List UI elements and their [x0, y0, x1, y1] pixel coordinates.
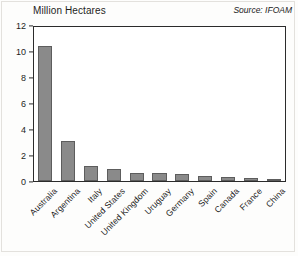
bar [221, 177, 235, 181]
bar [198, 176, 212, 181]
y-axis-tick-mark [29, 25, 33, 26]
y-axis-tick-label: 4 [21, 125, 26, 135]
x-axis-tick-label: France [238, 186, 264, 212]
bar-slot [175, 27, 189, 181]
bar-slot [107, 27, 121, 181]
y-axis-tick-mark [29, 51, 33, 52]
y-axis-tick-mark [29, 155, 33, 156]
y-axis-tick-label: 12 [16, 21, 26, 31]
bar-slot [38, 27, 52, 181]
chart-page: Million Hectares Source: IFOAM 024681012… [0, 0, 298, 256]
y-axis-tick-mark [29, 181, 33, 182]
bar-slot [267, 27, 281, 181]
y-axis-tick-label: 6 [21, 99, 26, 109]
x-axis-tick-label: Italy [86, 186, 105, 205]
y-axis-tick-label: 8 [21, 73, 26, 83]
y-axis-tick-label: 0 [21, 177, 26, 187]
y-axis-tick-mark [29, 103, 33, 104]
bar [175, 174, 189, 181]
y-axis-tick-mark [29, 77, 33, 78]
y-axis: 024681012 [0, 26, 33, 182]
bar-slot [244, 27, 258, 181]
bar-slot [130, 27, 144, 181]
bar-slot [84, 27, 98, 181]
bar [244, 178, 258, 181]
bar [130, 173, 144, 181]
bar-slot [61, 27, 75, 181]
chart-title: Million Hectares [33, 5, 106, 16]
bar [152, 173, 166, 181]
bar-slot [198, 27, 212, 181]
bar-slot [221, 27, 235, 181]
x-axis-tick-label: China [264, 186, 287, 209]
bar [267, 179, 281, 181]
bar [107, 169, 121, 181]
y-axis-tick-mark [29, 129, 33, 130]
bar [84, 166, 98, 181]
source-annotation: Source: IFOAM [233, 5, 292, 15]
bar [61, 141, 75, 181]
bar-series [34, 27, 285, 181]
x-axis: AustraliaArgentinaItalyUnited StatesUnit… [34, 182, 285, 256]
y-axis-tick-label: 2 [21, 151, 26, 161]
y-axis-tick-label: 10 [16, 47, 26, 57]
bar [38, 46, 52, 181]
bar-slot [152, 27, 166, 181]
